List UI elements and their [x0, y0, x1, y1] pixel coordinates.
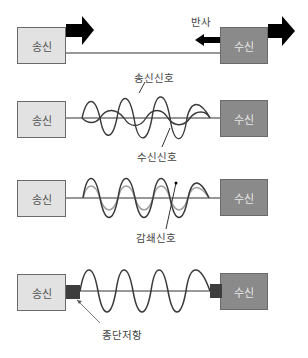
receiver-terminator-resistor: [210, 284, 222, 298]
transmit-signal-pointer: [139, 82, 145, 93]
faint-caption: [60, 348, 250, 356]
receive-signal-pointer: [162, 128, 170, 147]
reflection-arrow-icon: [195, 34, 220, 46]
sender-terminator-resistor: [66, 285, 80, 299]
terminator-pointer: [77, 300, 100, 323]
receiver-forward-arrow-icon: [268, 16, 295, 46]
diagram-graphics: [0, 0, 308, 358]
sender-forward-arrow-icon: [66, 16, 94, 45]
